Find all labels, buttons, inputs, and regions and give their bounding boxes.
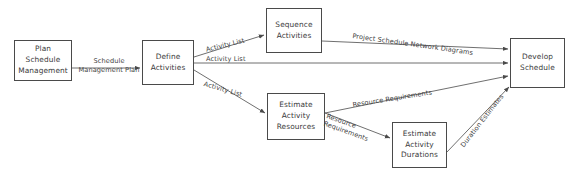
node-sequence-activities[interactable]: Sequence Activities	[266, 8, 322, 53]
node-estimate-activity-durations[interactable]: Estimate Activity Durations	[392, 122, 447, 168]
node-define-activities[interactable]: Define Activities	[142, 40, 194, 85]
node-develop-schedule[interactable]: Develop Schedule	[510, 38, 565, 88]
diagram-canvas: Plan Schedule Management Define Activiti…	[0, 0, 580, 180]
node-estimate-activity-resources[interactable]: Estimate Activity Resources	[267, 93, 325, 140]
edge-label-activity-list-to-develop: Activity List	[206, 55, 246, 64]
node-plan-schedule-management[interactable]: Plan Schedule Management	[14, 40, 72, 81]
edge-label-schedule-management-plan: Schedule Management Plan	[76, 57, 142, 75]
